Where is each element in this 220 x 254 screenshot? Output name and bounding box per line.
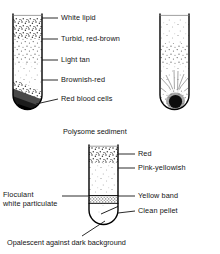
label-light-tan: Light tan — [61, 56, 90, 65]
tube-3-graphic — [88, 145, 119, 226]
label-turbid-red-brown: Turbid, red-brown — [61, 35, 120, 44]
floculant-line-2: white particulate — [3, 199, 57, 208]
tube-1-graphic — [12, 14, 43, 114]
label-floculant-white-particulate: Floculant white particulate — [3, 191, 65, 208]
label-polysome-sediment: Polysome sediment — [63, 127, 127, 136]
label-pink-yellowish: Pink-yellowish — [138, 164, 186, 173]
label-red: Red — [138, 150, 152, 159]
label-brownish-red: Brownish-red — [61, 76, 105, 85]
tube-2-graphic — [159, 14, 191, 113]
pellet-dot — [169, 95, 182, 108]
label-white-lipid: White lipid — [61, 14, 96, 23]
label-yellow-band: Yellow band — [138, 192, 178, 201]
centrifuge-tube-figure: White lipid Turbid, red-brown Light tan … — [0, 0, 220, 254]
label-opalescent-caption: Opalescent against dark background — [7, 238, 126, 247]
label-red-blood-cells: Red blood cells — [61, 95, 112, 104]
label-clean-pellet: Clean pellet — [138, 207, 178, 216]
